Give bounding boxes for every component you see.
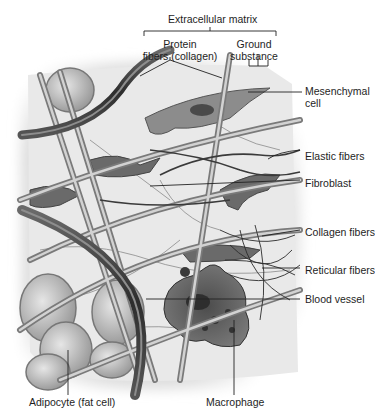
reticular-fibers-label: Reticular fibers (305, 264, 375, 276)
blood-vessel-label: Blood vessel (305, 293, 365, 305)
mesenchymal-cell-label: Mesenchymal cell (305, 85, 370, 109)
macrophage-label: Macrophage (206, 396, 264, 408)
protein-fibers-label: Protein fibers (collagen) (140, 38, 220, 62)
collagen-fibers-label: Collagen fibers (305, 226, 375, 238)
ground-substance-label: Ground substance (226, 38, 282, 62)
extracellular-matrix-label: Extracellular matrix (168, 13, 254, 25)
fibroblast-label: Fibroblast (305, 177, 351, 189)
adipocyte-label: Adipocyte (fat cell) (29, 396, 115, 408)
elastic-fibers-label: Elastic fibers (305, 150, 365, 162)
